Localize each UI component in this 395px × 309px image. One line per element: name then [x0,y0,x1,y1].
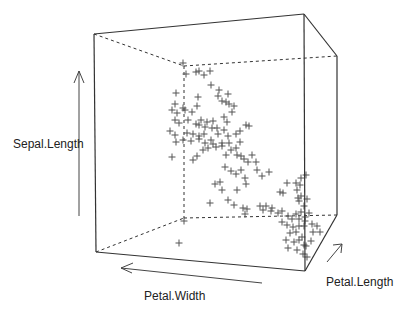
data-point [196,136,203,143]
data-point [266,169,273,176]
data-point [260,207,267,214]
data-point [317,229,324,236]
data-point [195,94,202,101]
data-point [284,222,291,229]
data-point [245,159,252,166]
scatter-points [167,60,324,261]
data-point [263,203,270,210]
data-point [289,216,296,223]
data-point [243,122,250,129]
data-point [174,110,181,117]
data-point [208,82,215,89]
data-point [284,180,291,187]
y-axis-arrow [327,244,342,262]
data-point [221,114,228,121]
data-point [238,153,245,160]
z-axis-label: Sepal.Length [13,137,84,151]
data-point [194,103,201,110]
data-point [308,238,315,245]
data-point [184,130,191,137]
data-point [202,140,209,147]
data-point [225,91,232,98]
data-point [277,189,284,196]
data-point [237,128,244,135]
data-point [219,187,226,194]
data-point [210,118,217,125]
data-point [246,123,253,130]
y-axis-label: Petal.Length [326,275,393,289]
data-point [285,245,292,252]
data-point [176,240,183,247]
data-point [238,167,245,174]
data-point [169,107,176,114]
data-point [188,138,195,145]
data-point [241,156,248,163]
data-point [189,109,196,116]
data-point [225,197,232,204]
data-point [224,119,231,126]
data-point [259,173,266,180]
box-visible-edges [94,14,337,271]
data-point [222,164,229,171]
data-point [167,128,174,135]
data-point [219,143,226,150]
data-point [196,68,203,75]
data-point [249,152,256,159]
data-point [225,133,232,140]
3d-scatter-plot: Sepal.Length Petal.Width Petal.Length [0,0,395,309]
data-point [215,131,222,138]
x-axis-label: Petal.Width [144,289,205,303]
data-point [172,101,179,108]
data-point [237,139,244,146]
data-point [294,187,301,194]
data-point [190,157,197,164]
data-point [209,125,216,132]
data-point [269,205,276,212]
data-point [215,93,222,100]
data-point [283,237,290,244]
data-point [176,120,183,127]
data-point [290,224,297,231]
data-point [310,229,317,236]
data-point [234,152,241,159]
data-point [233,171,240,178]
data-point [234,187,241,194]
data-point [223,152,230,159]
data-point [303,172,310,179]
data-point [240,205,247,212]
data-point [180,137,187,144]
data-point [216,87,223,94]
data-point [285,213,292,220]
data-point [207,200,214,207]
data-point [254,167,261,174]
data-point [294,247,301,254]
data-point [298,175,305,182]
data-point [228,168,235,175]
data-point [221,127,228,134]
data-point [173,139,180,146]
data-point [213,144,220,151]
data-point [190,131,197,138]
data-point [268,208,275,215]
data-point [293,229,300,236]
data-point [193,69,200,76]
data-point [201,72,208,79]
data-point [279,219,286,226]
data-point [243,181,250,188]
data-point [280,190,287,197]
data-point [231,202,238,209]
data-point [185,117,192,124]
data-point [219,98,226,105]
data-point [193,121,200,128]
data-point [173,90,180,97]
data-point [301,223,308,230]
data-point [257,203,264,210]
data-point [296,216,303,223]
data-point [183,71,190,78]
data-point [242,175,249,182]
data-point [253,159,260,166]
data-point [194,153,201,160]
data-point [172,117,179,124]
data-point [226,140,233,147]
data-point [172,132,179,139]
